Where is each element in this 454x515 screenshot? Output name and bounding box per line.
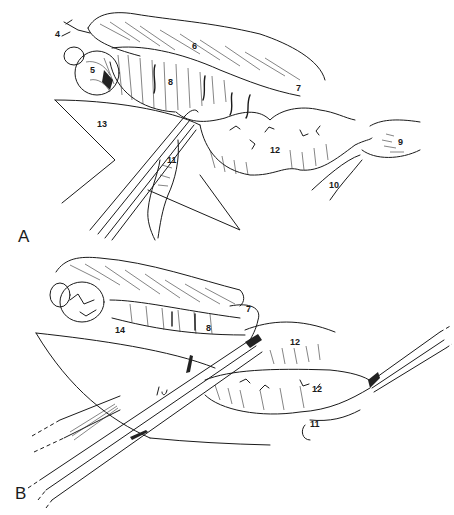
label-a-10: 10	[329, 181, 339, 190]
illustration-canvas	[0, 0, 454, 515]
label-b-8: 8	[206, 324, 211, 333]
label-a-8: 8	[168, 78, 173, 87]
label-a-5: 5	[90, 66, 95, 75]
label-a-4: 4	[55, 30, 60, 39]
panel-a-drawing	[55, 13, 420, 240]
label-b-11: 11	[310, 420, 320, 429]
label-b-12-lower: 12	[312, 385, 322, 394]
label-a-12: 12	[270, 146, 280, 155]
label-a-13: 13	[97, 120, 107, 129]
label-b-7: 7	[246, 305, 251, 314]
label-a-11: 11	[167, 156, 177, 165]
panel-b-drawing	[28, 257, 452, 508]
panel-label-a: A	[18, 228, 29, 245]
label-b-12-upper: 12	[290, 338, 300, 347]
label-a-6: 6	[192, 42, 197, 51]
label-a-7: 7	[296, 84, 301, 93]
label-a-9: 9	[398, 138, 403, 147]
label-b-14: 14	[115, 326, 125, 335]
panel-label-b: B	[15, 485, 26, 502]
